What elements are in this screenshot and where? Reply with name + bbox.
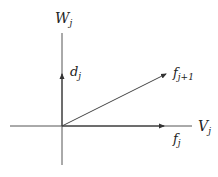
label-v-j: Vj [198,118,211,136]
label-f-j: fj [172,131,181,148]
label-f-j-plus-1: fj+1 [172,65,194,82]
vector-f-j-plus-1 [62,74,166,126]
label-d-j: dj [70,64,81,81]
diagram-canvas: Wj dj fj+1 Vj fj [0,0,218,177]
label-w-j: Wj [55,10,72,28]
